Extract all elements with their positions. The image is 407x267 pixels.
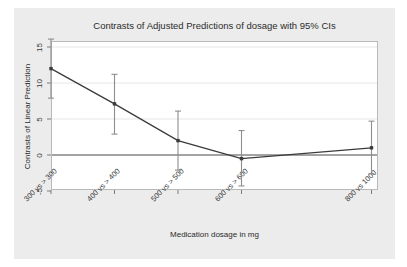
data-markers bbox=[49, 67, 373, 160]
gridlines bbox=[52, 47, 377, 155]
chart-graphics bbox=[0, 0, 407, 267]
error-bars bbox=[48, 39, 375, 186]
data-line bbox=[51, 69, 372, 159]
chart-screenshot: Contrasts of Adjusted Predictions of dos… bbox=[0, 0, 407, 267]
x-tick-marks bbox=[51, 190, 372, 194]
